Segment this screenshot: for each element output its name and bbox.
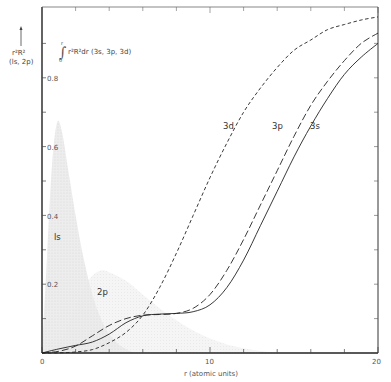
label-2p: 2p [97,287,108,297]
shaded-distributions [42,121,277,353]
label-3s: 3s [310,121,320,131]
label-3d: 3d [223,121,234,131]
integral-label: r²R²dr (3s, 3p, 3d) [68,48,131,56]
y-tick-label-0.2: 0.2 [47,281,58,289]
radial-distribution-chart: 0 10 20 r (atomic units) 0.2 0.4 0.6 0.8… [0,0,391,382]
y-tick-label-0.8: 0.8 [47,75,58,83]
integral-lower-limit: 0 [59,57,62,63]
label-1s: ls [54,232,61,242]
y-tick-label-0.6: 0.6 [47,144,59,152]
y-axis-subtitle: (ls, 2p) [9,58,34,66]
y-axis-arrow-icon [20,26,23,46]
y-tick-label-0.4: 0.4 [47,213,59,221]
y-axis-title: r²R² [12,49,26,57]
x-tick-label-10: 10 [205,358,214,366]
x-tick-label-20: 20 [372,358,381,366]
label-3p: 3p [272,121,283,131]
x-axis-title: r (atomic units) [184,370,238,378]
x-tick-label-0: 0 [40,358,44,366]
